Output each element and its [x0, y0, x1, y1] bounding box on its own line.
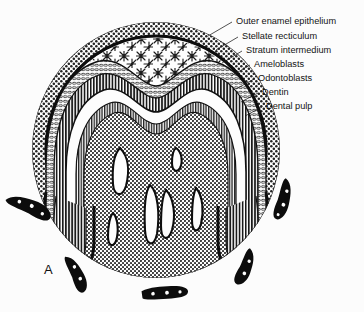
label-outer-enamel-epithelium: Outer enamel epithelium — [236, 16, 336, 26]
panel-letter: A — [44, 262, 53, 277]
leader-line-outer-enamel-epithelium — [208, 22, 232, 36]
label-stratum-intermedium: Stratum intermedium — [246, 45, 332, 55]
label-dentin: Dentin — [262, 87, 289, 97]
label-dental-pulp: Dental pulp — [266, 101, 312, 111]
bone-right-lower — [232, 248, 260, 288]
label-odontoblasts: Odontoblasts — [258, 73, 313, 83]
label-ameloblasts: Ameloblasts — [254, 59, 304, 69]
tooth-germ-diagram: Outer enamel epitheliumStellate recticul… — [0, 0, 364, 312]
label-stellate-reticulum: Stellate recticulum — [242, 31, 317, 41]
bone-bottom — [141, 283, 189, 303]
crown-profile-group — [46, 60, 266, 300]
figure-canvas: Outer enamel epitheliumStellate recticul… — [0, 0, 364, 312]
bone-left-lower — [63, 253, 90, 295]
